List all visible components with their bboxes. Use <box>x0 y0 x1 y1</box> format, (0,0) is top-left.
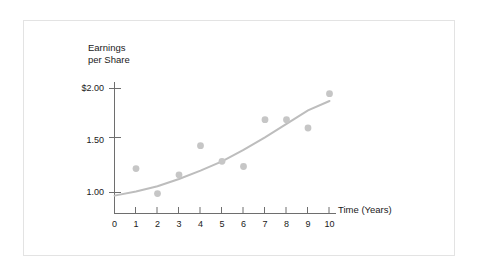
y-axis-title-line1: Earnings <box>88 42 126 53</box>
x-tick-label: 4 <box>193 219 209 229</box>
data-point <box>133 165 140 172</box>
x-tick-label: 3 <box>171 219 187 229</box>
data-point <box>305 125 312 132</box>
y-tick-label: 1.00 <box>62 187 104 197</box>
data-point <box>219 158 226 165</box>
x-tick-label: 2 <box>150 219 166 229</box>
trend-line <box>115 101 330 196</box>
x-tick-label: 8 <box>279 219 295 229</box>
data-point <box>197 142 204 149</box>
y-tick-label: $2.00 <box>62 83 104 93</box>
data-point-group <box>133 90 333 197</box>
x-axis-ticks <box>136 207 330 214</box>
data-point <box>154 190 161 197</box>
x-tick-label: 10 <box>322 219 338 229</box>
x-tick-label: 7 <box>257 219 273 229</box>
x-tick-label: 9 <box>300 219 316 229</box>
x-tick-label: 1 <box>128 219 144 229</box>
data-point <box>240 163 247 170</box>
x-tick-label: 6 <box>236 219 252 229</box>
data-point <box>262 116 269 123</box>
y-axis-title-line2: per Share <box>88 54 130 65</box>
x-tick-label: 0 <box>107 219 123 229</box>
data-point <box>176 171 183 178</box>
data-point <box>326 90 333 97</box>
data-point <box>283 116 290 123</box>
y-tick-label: 1.50 <box>62 135 104 145</box>
x-axis-title: Time (Years) <box>338 204 392 216</box>
y-axis-title: Earnings per Share <box>88 42 130 65</box>
axes-group <box>115 82 337 214</box>
x-tick-label: 5 <box>214 219 230 229</box>
